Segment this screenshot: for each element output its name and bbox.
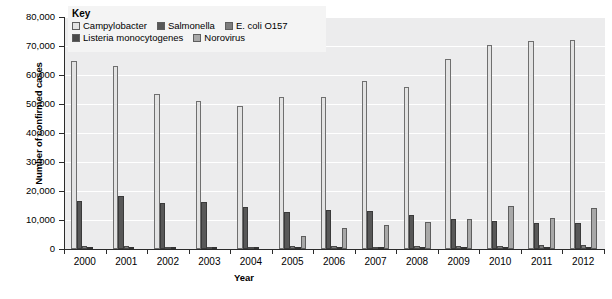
y-tick-label: 50,000	[3, 98, 55, 109]
bar-listeria-monocytogenes-2004	[254, 247, 259, 249]
x-tick	[230, 250, 231, 254]
legend-entry: Campylobacter	[72, 20, 147, 31]
bar-norovirus-2010	[508, 206, 513, 249]
bar-listeria-monocytogenes-2002	[171, 247, 176, 249]
legend-entry: Norovirus	[193, 32, 245, 43]
x-tick	[604, 250, 605, 254]
legend-entry: Listeria monocytogenes	[72, 32, 183, 43]
x-axis-title: Year	[0, 272, 612, 283]
legend-label: E. coli O157	[236, 20, 288, 31]
bar-salmonella-2002	[160, 203, 165, 249]
y-tick	[59, 191, 64, 192]
x-tick	[355, 250, 356, 254]
bar-norovirus-2009	[467, 219, 472, 249]
bar-listeria-monocytogenes-2001	[129, 247, 134, 249]
y-tick	[59, 162, 64, 163]
bar-salmonella-2008	[409, 215, 414, 249]
bar-norovirus-2008	[425, 222, 430, 249]
y-tick-label: 60,000	[3, 69, 55, 80]
bar-salmonella-2007	[367, 211, 372, 249]
x-axis-line	[64, 249, 605, 250]
x-axis-title-text: Year	[234, 272, 254, 283]
y-tick	[59, 75, 64, 76]
x-tick	[521, 250, 522, 254]
y-tick	[59, 17, 64, 18]
bar-salmonella-2001	[118, 196, 123, 249]
bar-norovirus-2007	[384, 225, 389, 249]
y-tick-label: 40,000	[3, 127, 55, 138]
bar-cluster	[362, 17, 389, 249]
bar-cluster	[404, 17, 431, 249]
y-tick	[59, 104, 64, 105]
bar-campylobacter-2010	[487, 45, 492, 249]
x-tick	[189, 250, 190, 254]
legend-swatch-icon	[72, 22, 80, 30]
legend-row: CampylobacterSalmonellaE. coli O157	[72, 20, 326, 31]
x-tick-label: 2012	[553, 256, 612, 267]
bar-cluster	[528, 17, 555, 249]
bar-campylobacter-2011	[528, 41, 533, 249]
bar-cluster	[445, 17, 472, 249]
legend-entry: E. coli O157	[225, 20, 288, 31]
bar-campylobacter-2012	[570, 40, 575, 249]
x-tick	[479, 250, 480, 254]
bar-salmonella-2000	[77, 201, 82, 249]
legend-swatch-icon	[225, 22, 233, 30]
legend-swatch-icon	[72, 34, 80, 42]
legend-entry: Salmonella	[157, 20, 215, 31]
y-tick-label: 20,000	[3, 185, 55, 196]
x-tick	[147, 250, 148, 254]
y-tick-label: 10,000	[3, 214, 55, 225]
chart-legend: Key CampylobacterSalmonellaE. coli O157L…	[68, 6, 326, 52]
y-tick-label: 30,000	[3, 156, 55, 167]
legend-rows: CampylobacterSalmonellaE. coli O157Liste…	[68, 20, 326, 43]
x-tick	[64, 250, 65, 254]
bar-norovirus-2006	[342, 228, 347, 249]
y-tick	[59, 220, 64, 221]
legend-label: Campylobacter	[83, 20, 147, 31]
bar-salmonella-2005	[284, 212, 289, 249]
bar-norovirus-2011	[550, 218, 555, 249]
y-tick-label: 0	[3, 243, 55, 254]
chart-figure: Number of confirmed cases 80,00070,00060…	[0, 0, 612, 299]
y-tick	[59, 46, 64, 47]
legend-swatch-icon	[157, 22, 165, 30]
bar-salmonella-2009	[451, 219, 456, 249]
bar-salmonella-2003	[201, 202, 206, 249]
x-tick	[106, 250, 107, 254]
x-tick	[396, 250, 397, 254]
bar-salmonella-2006	[326, 210, 331, 249]
bar-listeria-monocytogenes-2000	[87, 247, 92, 249]
bar-cluster	[487, 17, 514, 249]
x-tick	[313, 250, 314, 254]
bar-norovirus-2012	[591, 208, 596, 249]
y-tick-label: 80,000	[3, 11, 55, 22]
bar-cluster	[570, 17, 597, 249]
legend-swatch-icon	[193, 34, 201, 42]
legend-row: Listeria monocytogenesNorovirus	[72, 32, 326, 43]
x-tick	[272, 250, 273, 254]
y-tick	[59, 133, 64, 134]
legend-label: Norovirus	[204, 32, 245, 43]
x-tick	[438, 250, 439, 254]
bar-listeria-monocytogenes-2003	[212, 247, 217, 249]
bar-salmonella-2004	[243, 207, 248, 249]
legend-label: Salmonella	[168, 20, 215, 31]
bar-norovirus-2005	[301, 236, 306, 249]
x-tick	[562, 250, 563, 254]
legend-label: Listeria monocytogenes	[83, 32, 183, 43]
y-tick-label: 70,000	[3, 40, 55, 51]
legend-title: Key	[72, 8, 326, 19]
